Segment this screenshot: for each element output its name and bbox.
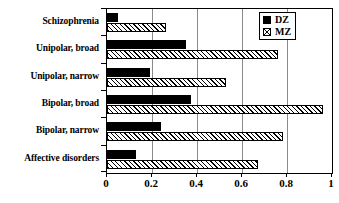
bar-dz-bipolar-narrow bbox=[107, 122, 161, 131]
x-axis-labels: 0 0.2 0.4 0.6 0.8 1 bbox=[0, 178, 339, 198]
x-tick-label-0.6: 0.6 bbox=[234, 178, 248, 189]
legend-item-mz: MZ bbox=[263, 27, 291, 37]
bar-group-affective-disorders bbox=[107, 146, 332, 173]
category-label-unipolar-broad: Unipolar, broad bbox=[0, 35, 103, 62]
bar-mz-schizophrenia bbox=[107, 23, 166, 32]
plot-area: DZ MZ bbox=[106, 8, 333, 174]
bar-dz-unipolar-narrow bbox=[107, 68, 150, 77]
y-axis-category-labels: Schizophrenia Unipolar, broad Unipolar, … bbox=[0, 8, 103, 172]
legend-label-dz: DZ bbox=[275, 15, 289, 25]
bar-mz-unipolar-broad bbox=[107, 50, 278, 59]
bar-dz-bipolar-broad bbox=[107, 95, 191, 104]
x-tick-label-0.8: 0.8 bbox=[279, 178, 293, 189]
bar-mz-affective-disorders bbox=[107, 160, 258, 169]
bar-mz-unipolar-narrow bbox=[107, 78, 226, 87]
legend-label-mz: MZ bbox=[275, 27, 291, 37]
x-tick-label-0: 0 bbox=[103, 178, 109, 189]
bar-group-unipolar-broad bbox=[107, 36, 332, 63]
bar-chart: Schizophrenia Unipolar, broad Unipolar, … bbox=[0, 0, 339, 203]
legend-swatch-mz-icon bbox=[263, 28, 271, 36]
bar-group-schizophrenia bbox=[107, 9, 332, 36]
category-label-bipolar-broad: Bipolar, broad bbox=[0, 90, 103, 117]
bar-group-unipolar-narrow bbox=[107, 64, 332, 91]
legend-item-dz: DZ bbox=[263, 15, 291, 25]
bar-rows bbox=[107, 9, 332, 173]
x-tick-label-1: 1 bbox=[328, 178, 334, 189]
legend: DZ MZ bbox=[259, 12, 296, 40]
x-tick-label-0.2: 0.2 bbox=[144, 178, 158, 189]
bar-mz-bipolar-narrow bbox=[107, 132, 283, 141]
bar-dz-schizophrenia bbox=[107, 13, 118, 22]
x-tick-label-0.4: 0.4 bbox=[189, 178, 203, 189]
legend-swatch-dz-icon bbox=[263, 16, 271, 24]
bar-mz-bipolar-broad bbox=[107, 105, 323, 114]
bar-group-bipolar-broad bbox=[107, 91, 332, 118]
category-label-affective-disorders: Affective disorders bbox=[0, 145, 103, 172]
category-label-schizophrenia: Schizophrenia bbox=[0, 8, 103, 35]
bar-dz-affective-disorders bbox=[107, 150, 136, 159]
category-label-bipolar-narrow: Bipolar, narrow bbox=[0, 117, 103, 144]
category-label-unipolar-narrow: Unipolar, narrow bbox=[0, 63, 103, 90]
bar-dz-unipolar-broad bbox=[107, 40, 186, 49]
bar-group-bipolar-narrow bbox=[107, 118, 332, 145]
